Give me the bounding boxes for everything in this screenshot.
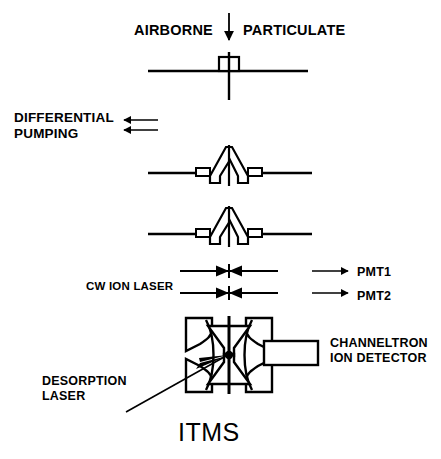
- label-desorption-laser: DESORPTION LASER: [42, 374, 127, 404]
- skimmer-stage-2: [148, 206, 312, 247]
- desorption-focal-spot: [225, 351, 233, 359]
- laser-beam-2: [180, 286, 278, 300]
- inlet-stage: [148, 52, 308, 100]
- quadrupole-ion-trap: [186, 316, 272, 394]
- channeltron-detector-box: [264, 341, 318, 365]
- label-airborne: AIRBORNE: [134, 22, 213, 39]
- label-particulate: PARTICULATE: [243, 22, 345, 39]
- label-differential-pumping: DIFFERENTIAL PUMPING: [14, 110, 114, 142]
- label-pmt1: PMT1: [357, 265, 391, 280]
- figure-title-itms: ITMS: [178, 418, 240, 448]
- skimmer-stage-1: [148, 145, 312, 186]
- laser-beam-1: [180, 264, 278, 278]
- label-pmt2: PMT2: [357, 289, 391, 304]
- label-cw-ion-laser: CW ION LASER: [86, 280, 173, 294]
- pmt-signal-arrows: [312, 271, 348, 293]
- label-channeltron-ion-detector: CHANNELTRON ION DETECTOR: [330, 336, 428, 366]
- figure-canvas: AIRBORNE PARTICULATE DIFFERENTIAL PUMPIN…: [0, 0, 441, 459]
- differential-pumping-arrows: [124, 120, 158, 130]
